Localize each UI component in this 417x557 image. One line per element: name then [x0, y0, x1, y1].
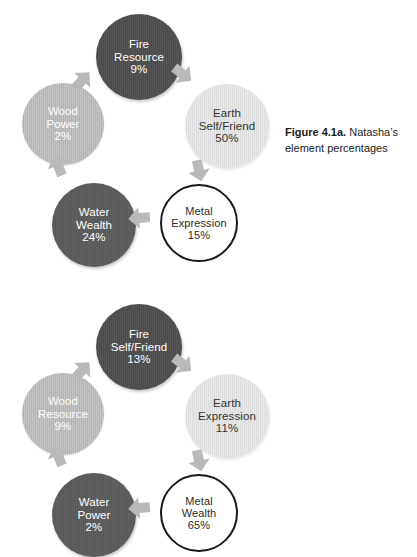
node-element-label: Wood [48, 395, 78, 408]
block-arrow-icon-metal-to-water [125, 203, 153, 231]
node-quality-label: Power [46, 118, 79, 131]
block-arrow-icon-metal-to-water [125, 493, 153, 521]
node-element-label: Wood [48, 105, 78, 118]
node-water-a[interactable]: Water Wealth 24% [52, 183, 136, 267]
block-arrow-icon-earth-to-metal [183, 446, 214, 477]
figure-number: Figure 4.1a. [285, 126, 346, 138]
node-percent-value: 11% [216, 422, 238, 435]
node-water-b[interactable]: Water Power 2% [52, 473, 136, 557]
node-element-label: Earth [213, 107, 241, 120]
node-earth-b[interactable]: Earth Expression 11% [185, 374, 269, 458]
element-cycle-diagram-a: Fire Resource 9% Earth Self/Friend 50% M… [8, 0, 270, 267]
element-cycle-diagram-b: Fire Self/Friend 13% Earth Expression 11… [8, 290, 270, 557]
node-percent-value: 2% [55, 130, 72, 143]
node-percent-value: 65% [188, 519, 210, 531]
node-percent-value: 24% [82, 231, 105, 244]
node-element-label: Earth [213, 397, 241, 410]
node-quality-label: Wealth [76, 219, 112, 232]
node-quality-label: Resource [38, 408, 88, 421]
figure-caption-a: Figure 4.1a. Natasha’s element percentag… [285, 125, 413, 157]
figure-4-1b: Fire Self/Friend 13% Earth Expression 11… [0, 290, 417, 557]
node-percent-value: 15% [188, 229, 210, 241]
node-element-label: Metal [185, 205, 212, 217]
node-quality-label: Self/Friend [199, 120, 256, 133]
node-quality-label: Power [77, 509, 110, 522]
node-fire-b[interactable]: Fire Self/Friend 13% [96, 304, 182, 390]
node-percent-value: 2% [86, 521, 103, 534]
figure-4-1a: Fire Resource 9% Earth Self/Friend 50% M… [0, 0, 417, 285]
node-metal-a[interactable]: Metal Expression 15% [160, 184, 238, 262]
node-percent-value: 13% [127, 353, 150, 366]
node-percent-value: 50% [215, 132, 238, 145]
node-quality-label: Self/Friend [111, 341, 168, 354]
block-arrow-icon-earth-to-metal [183, 156, 214, 187]
node-element-label: Water [79, 206, 110, 219]
node-element-label: Metal [185, 495, 212, 507]
node-quality-label: Wealth [182, 507, 217, 519]
node-quality-label: Expression [198, 410, 256, 423]
node-element-label: Fire [129, 328, 149, 341]
node-percent-value: 9% [55, 420, 72, 433]
node-element-label: Fire [129, 38, 149, 51]
node-earth-a[interactable]: Earth Self/Friend 50% [185, 84, 269, 168]
node-metal-b[interactable]: Metal Wealth 65% [160, 474, 238, 552]
node-element-label: Water [79, 496, 110, 509]
node-quality-label: Expression [171, 217, 226, 229]
node-quality-label: Resource [114, 51, 164, 64]
node-percent-value: 9% [131, 63, 148, 76]
node-fire-a[interactable]: Fire Resource 9% [96, 14, 182, 100]
